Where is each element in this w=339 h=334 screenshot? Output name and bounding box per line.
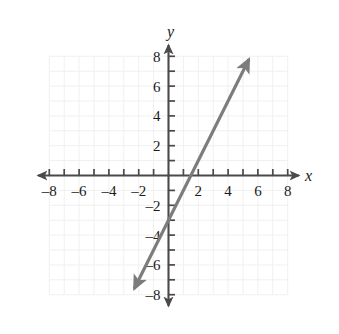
y-axis-name: y (165, 23, 175, 41)
x-tick-label: –2 (130, 183, 146, 199)
x-tick-label: –4 (100, 183, 117, 199)
x-tick-label: 6 (254, 183, 262, 199)
y-tick-label: 6 (153, 79, 161, 95)
plotted-line (134, 59, 249, 288)
x-tick-label: 4 (224, 183, 232, 199)
y-tick-label: 8 (153, 49, 161, 65)
y-tick-label: 4 (153, 108, 161, 124)
x-axis-name: x (304, 167, 312, 184)
y-tick-label: –8 (145, 287, 161, 303)
x-tick-label: –8 (41, 183, 57, 199)
y-tick-label: –2 (145, 198, 161, 214)
data-line (134, 59, 249, 288)
x-tick-label: –6 (71, 183, 88, 199)
axes (38, 45, 299, 306)
x-tick-label: 8 (284, 183, 292, 199)
coordinate-plane-figure: –8–6–4–224688642–2–4–6–8 xy (0, 0, 339, 334)
axis-name-labels: xy (165, 23, 312, 184)
graph-canvas: –8–6–4–224688642–2–4–6–8 xy (0, 0, 339, 334)
y-tick-label: 2 (153, 138, 161, 154)
x-tick-label: 2 (195, 183, 203, 199)
